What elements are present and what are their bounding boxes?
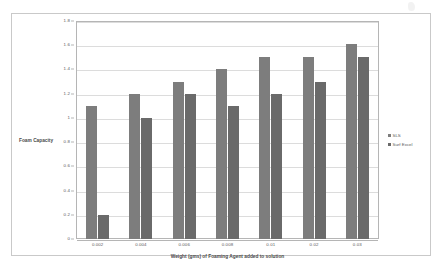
- y-axis-tick-mark: [71, 117, 74, 118]
- bar-surf-excel: [228, 106, 239, 239]
- bar-surf-excel: [98, 215, 109, 239]
- y-axis-tick-label: 0.6: [64, 164, 70, 168]
- y-axis-tick-mark: [71, 69, 74, 70]
- legend-label: SLS: [393, 133, 401, 138]
- y-axis-tick-label: 1.8: [64, 19, 70, 23]
- bar-sls: [173, 82, 184, 239]
- y-axis-tick-label: 1.4: [64, 67, 70, 71]
- legend-item-sls: SLS: [388, 133, 432, 138]
- y-axis-tick-mark: [71, 214, 74, 215]
- x-axis-tick-label: 0.008: [222, 242, 234, 247]
- y-axis-tick-mark: [71, 21, 74, 22]
- bar-surf-excel: [358, 57, 369, 239]
- scan-artifact-speck: [408, 2, 415, 11]
- y-axis-tick-mark: [71, 93, 74, 94]
- bar-group: [206, 21, 249, 239]
- chart-page-frame: Foam Capacity 00.20.40.60.811.21.41.61.8…: [11, 13, 431, 256]
- bar-sls: [216, 69, 227, 239]
- y-axis-tick-mark: [71, 142, 74, 143]
- y-axis-tick-mark: [71, 190, 74, 191]
- x-axis-tick-label: 0.004: [135, 242, 147, 247]
- x-axis-tick-label: 0.002: [92, 242, 104, 247]
- bar-sls: [303, 57, 314, 239]
- bar-sls: [86, 106, 97, 239]
- y-axis-tick-label: 0.4: [64, 188, 70, 192]
- y-axis-tick-mark: [71, 239, 74, 240]
- x-axis-title: Weight (gms) of Foaming Agent added to s…: [76, 254, 379, 259]
- y-axis-tick-mark: [71, 45, 74, 46]
- bar-surf-excel: [141, 118, 152, 239]
- x-axis-tick-label: 0.02: [310, 242, 319, 247]
- bar-group: [163, 21, 206, 239]
- legend-item-surf-excel: Surf Excel: [388, 142, 432, 147]
- y-axis-tick-label: 1: [67, 116, 70, 120]
- bar-group: [119, 21, 162, 239]
- x-axis-tick-label: 0.03: [353, 242, 362, 247]
- y-axis-tick-label: 0.2: [64, 213, 70, 217]
- y-axis-title: Foam Capacity: [19, 138, 53, 143]
- x-axis: 0.0020.0040.0060.0080.010.020.03: [76, 242, 379, 252]
- bar-sls: [259, 57, 270, 239]
- gridline: [77, 240, 378, 241]
- y-axis-tick-mark: [71, 166, 74, 167]
- bar-sls: [129, 94, 140, 239]
- bar-surf-excel: [315, 82, 326, 239]
- y-axis-tick-label: 1.2: [64, 91, 70, 95]
- bars-layer: [76, 21, 379, 239]
- x-axis-tick-label: 0.006: [178, 242, 190, 247]
- bar-group: [336, 21, 379, 239]
- legend-swatch-icon: [388, 143, 391, 146]
- bar-surf-excel: [271, 94, 282, 239]
- x-axis-tick-label: 0.01: [266, 242, 275, 247]
- bar-group: [292, 21, 335, 239]
- bar-group: [76, 21, 119, 239]
- y-axis-tick-label: 1.6: [64, 43, 70, 47]
- bar-sls: [346, 44, 357, 239]
- legend-swatch-icon: [388, 134, 391, 137]
- chart-container: Foam Capacity 00.20.40.60.811.21.41.61.8…: [12, 14, 432, 257]
- y-axis-tick-label: 0: [67, 237, 70, 241]
- bar-surf-excel: [185, 94, 196, 239]
- bar-group: [249, 21, 292, 239]
- y-axis-tick-label: 0.8: [64, 140, 70, 144]
- legend-label: Surf Excel: [393, 142, 413, 147]
- y-axis: 00.20.40.60.811.21.41.61.8: [56, 21, 74, 239]
- chart-legend: SLSSurf Excel: [388, 133, 432, 151]
